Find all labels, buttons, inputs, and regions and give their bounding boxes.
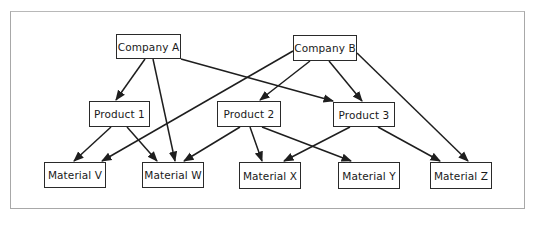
edge-product2-to-materialY [262,127,351,161]
edge-product1-to-materialV [74,127,111,161]
node-company-a: Company A [116,34,181,59]
node-product-1: Product 1 [89,101,150,127]
node-material-z: Material Z [430,162,492,189]
node-product-2: Product 2 [217,101,281,127]
edge-companyB-to-product3 [329,61,362,101]
node-material-y: Material Y [338,162,400,189]
node-company-b: Company B [293,35,357,61]
node-material-w: Material W [142,162,204,188]
edge-product2-to-materialX [250,127,262,161]
node-material-x: Material X [239,162,301,189]
edge-companyA-to-product3 [181,59,333,101]
node-material-v: Material V [44,162,106,188]
edge-product2-to-materialW [184,127,240,161]
node-product-3: Product 3 [333,102,395,127]
edge-product3-to-materialZ [378,127,440,161]
edge-product3-to-materialX [284,127,350,161]
edge-companyB-to-product2 [260,61,310,100]
edge-companyA-to-product1 [116,59,145,100]
edge-companyA-to-materialW [153,59,175,161]
